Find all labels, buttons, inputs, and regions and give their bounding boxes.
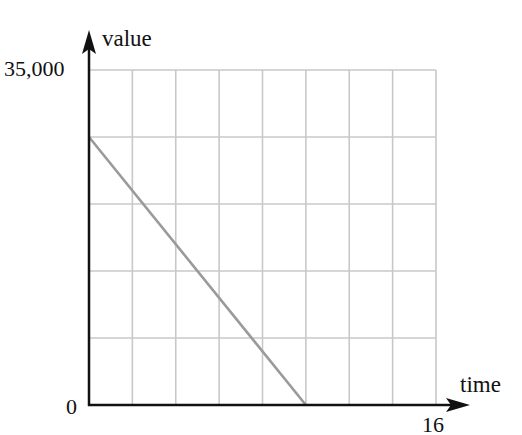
grid-lines [89,70,436,405]
axes [82,30,470,412]
origin-tick-label: 0 [66,396,77,418]
y-axis-title: value [102,27,152,50]
chart-canvas [0,0,522,435]
y-max-tick-label: 35,000 [4,58,65,80]
x-axis-title: time [460,373,501,396]
x-max-tick-label: 16 [422,414,444,435]
